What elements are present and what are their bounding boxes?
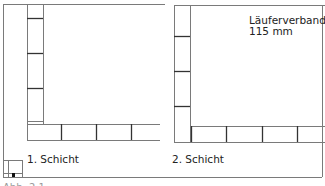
brick-bond-diagram: Läuferverband 115 mm 1. Schicht 2. Schic… — [0, 0, 325, 186]
panel-1-horizontal-bricks — [27, 125, 160, 141]
figure-caption: Abb. 2.1 — [3, 182, 45, 186]
panel-2-horizontal-bricks — [190, 127, 325, 143]
wall-thickness: 115 mm — [249, 25, 293, 37]
panel-1-vertical-bricks — [27, 4, 44, 140]
corner-box-marker — [12, 173, 15, 177]
panel-2-layer-2 — [160, 5, 325, 178]
panel-1-label: 1. Schicht — [27, 153, 79, 165]
panel-2-label: 2. Schicht — [172, 153, 224, 165]
panel-2-vertical-bricks — [174, 5, 191, 143]
panel-1-layer-1 — [3, 4, 165, 178]
